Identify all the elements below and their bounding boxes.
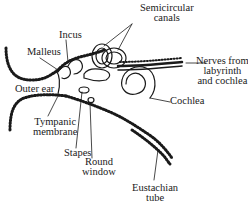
label-line: window <box>82 167 116 177</box>
label-malleus: Malleus <box>27 47 61 57</box>
leader-malleus <box>40 58 58 70</box>
label-line: tube <box>132 193 178 203</box>
leader-tympanic <box>48 96 58 116</box>
leader-eustachian <box>154 150 158 180</box>
cochlea-spiral <box>122 67 155 98</box>
label-eustachian-tube: Eustachian tube <box>132 183 178 203</box>
label-cochlea: Cochlea <box>170 96 204 106</box>
label-semicircular-canals: Semicircular canals <box>140 3 194 23</box>
ear-anatomy-drawing <box>0 0 248 206</box>
leader-canals-1 <box>118 24 132 50</box>
label-line: and cochlea <box>196 76 248 86</box>
leader-cochlea <box>150 98 170 102</box>
label-nerves: Nerves from labyrinth and cochlea <box>196 56 248 86</box>
round-window-shape <box>88 98 94 103</box>
label-line: canals <box>140 13 194 23</box>
label-outer-ear: Outer ear <box>15 84 54 94</box>
label-tympanic-membrane: Tympanic membrane <box>33 117 77 137</box>
leader-canals-2 <box>104 24 132 46</box>
ear-diagram: Semicircular canals Incus Malleus Outer … <box>0 0 248 206</box>
leader-incus <box>66 40 68 62</box>
label-line: membrane <box>33 127 77 137</box>
stapes-shape <box>79 87 89 93</box>
vestibule <box>84 69 110 81</box>
label-incus: Incus <box>59 30 82 40</box>
label-round-window: Round window <box>82 157 116 177</box>
tympanic-membrane <box>56 70 59 94</box>
